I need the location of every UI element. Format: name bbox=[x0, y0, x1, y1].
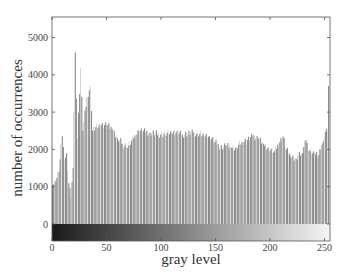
histogram-bar bbox=[202, 134, 203, 224]
histogram-bar bbox=[105, 122, 106, 224]
histogram-bar bbox=[302, 153, 303, 224]
histogram-bar bbox=[55, 181, 56, 224]
histogram-bar bbox=[313, 151, 314, 224]
histogram-bar bbox=[231, 148, 232, 224]
histogram-bar bbox=[62, 136, 63, 224]
histogram-bar bbox=[107, 125, 108, 224]
y-tick-label: 1000 bbox=[28, 181, 48, 192]
histogram-bar bbox=[315, 154, 316, 224]
histogram-bar bbox=[305, 140, 306, 224]
histogram-bar bbox=[222, 149, 223, 224]
x-axis-label: gray level bbox=[161, 251, 221, 267]
y-tick-label: 3000 bbox=[28, 107, 48, 118]
histogram-bar bbox=[225, 146, 226, 224]
histogram-bar bbox=[123, 148, 124, 224]
histogram-bar bbox=[99, 125, 100, 224]
gray-gradient-strip bbox=[52, 224, 330, 241]
histogram-bar bbox=[84, 111, 85, 224]
histogram-bar bbox=[261, 144, 262, 224]
histogram-bar bbox=[312, 154, 313, 224]
histogram-bar bbox=[289, 154, 290, 224]
histogram-bar bbox=[167, 133, 168, 224]
histogram-bar bbox=[169, 134, 170, 224]
histogram-bar bbox=[82, 131, 83, 224]
histogram-bar bbox=[263, 144, 264, 224]
histogram-bar bbox=[274, 151, 275, 224]
histogram-bar bbox=[153, 130, 154, 224]
histogram-bar bbox=[108, 123, 109, 224]
histogram-bar bbox=[79, 94, 80, 224]
histogram-bar bbox=[244, 142, 245, 224]
histogram-bar bbox=[199, 134, 200, 224]
y-tick-label: 4000 bbox=[28, 69, 48, 80]
histogram-bar bbox=[316, 152, 317, 224]
histogram-bar bbox=[127, 148, 128, 224]
histogram-bar bbox=[138, 130, 139, 224]
histogram-bar bbox=[214, 142, 215, 224]
histogram-bar bbox=[215, 140, 216, 224]
histogram-bar bbox=[60, 159, 61, 224]
histogram-bar bbox=[156, 130, 157, 224]
histogram-bar bbox=[71, 182, 72, 224]
histogram-bar bbox=[130, 145, 131, 224]
histogram-bar bbox=[293, 161, 294, 224]
histogram-bar bbox=[253, 135, 254, 224]
histogram-bar bbox=[125, 145, 126, 224]
histogram-bar bbox=[323, 142, 324, 224]
histogram-bar bbox=[277, 144, 278, 224]
histogram-bar bbox=[198, 136, 199, 224]
histogram-bar bbox=[68, 183, 69, 224]
histogram-bar bbox=[250, 137, 251, 224]
histogram-bar bbox=[234, 150, 235, 224]
histogram-bar bbox=[91, 111, 92, 224]
histogram-bar bbox=[192, 129, 193, 224]
histogram-bar bbox=[154, 135, 155, 224]
histogram-bar bbox=[149, 133, 150, 224]
histogram-bar bbox=[260, 138, 261, 224]
histogram-bar bbox=[94, 130, 95, 224]
histogram-bar bbox=[254, 140, 255, 224]
histogram-bar bbox=[102, 123, 103, 224]
histogram-bar bbox=[86, 107, 87, 224]
histogram-bar bbox=[258, 138, 259, 224]
x-tick-label: 50 bbox=[102, 242, 112, 253]
histogram-bar bbox=[140, 131, 141, 224]
histogram-bar bbox=[297, 160, 298, 224]
histogram-bar bbox=[271, 149, 272, 224]
histogram-bar bbox=[326, 129, 327, 224]
histogram-bar bbox=[75, 52, 76, 224]
histogram-bar bbox=[266, 149, 267, 224]
histogram-bar bbox=[53, 184, 54, 224]
histogram-bar bbox=[120, 138, 121, 224]
histogram-bar bbox=[144, 128, 145, 224]
histogram-bar bbox=[245, 139, 246, 224]
histogram-bar bbox=[159, 138, 160, 224]
histogram-bar bbox=[279, 142, 280, 224]
histogram-bar bbox=[95, 127, 96, 224]
histogram-bar bbox=[97, 128, 98, 224]
histogram-bar bbox=[235, 148, 236, 224]
y-tick-label: 2000 bbox=[28, 144, 48, 155]
histogram-bar bbox=[248, 137, 249, 224]
histogram-bars bbox=[52, 52, 329, 224]
histogram-bar bbox=[196, 134, 197, 224]
histogram-bar bbox=[273, 153, 274, 224]
histogram-bar bbox=[224, 143, 225, 224]
histogram-bar bbox=[63, 147, 64, 224]
histogram-bar bbox=[283, 136, 284, 224]
histogram-bar bbox=[92, 131, 93, 224]
x-tick-label: 0 bbox=[50, 242, 55, 253]
histogram-bar bbox=[240, 144, 241, 224]
histogram-bar bbox=[150, 135, 151, 224]
histogram-bar bbox=[193, 133, 194, 224]
histogram-bar bbox=[182, 134, 183, 224]
histogram-bar bbox=[211, 139, 212, 224]
histogram-bar bbox=[141, 128, 142, 224]
histogram-bar bbox=[221, 145, 222, 224]
histogram-bar bbox=[318, 155, 319, 224]
histogram-bar bbox=[128, 146, 129, 224]
histogram-bar bbox=[170, 131, 171, 224]
y-axis-label: number of occurrences bbox=[9, 59, 25, 197]
histogram-bar bbox=[228, 148, 229, 224]
histogram-bar bbox=[136, 134, 137, 224]
